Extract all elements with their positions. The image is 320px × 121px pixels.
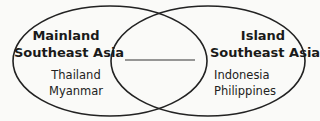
- right-set-title-line1: Island: [210, 27, 316, 44]
- right-set-item: Philippines: [214, 83, 274, 99]
- left-set-item: Thailand: [44, 67, 108, 83]
- right-set-ellipse: [111, 6, 305, 116]
- left-set-items: Thailand Myanmar: [44, 67, 108, 99]
- right-set-items: Indonesia Philippines: [214, 67, 274, 99]
- left-set-title-line1: Mainland: [14, 27, 118, 44]
- right-set-title-line2: Southeast Asia: [210, 44, 316, 61]
- left-set-label: Mainland Southeast Asia: [14, 27, 118, 61]
- left-set-item: Myanmar: [44, 83, 108, 99]
- right-set-item: Indonesia: [214, 67, 274, 83]
- right-set-label: Island Southeast Asia: [210, 27, 316, 61]
- left-set-title-line2: Southeast Asia: [14, 44, 118, 61]
- left-set-ellipse: [13, 6, 207, 116]
